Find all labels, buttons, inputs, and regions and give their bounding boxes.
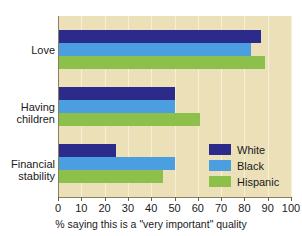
category-label-financial-stability: Financial stability [11,158,55,182]
legend-swatch-hispanic-icon [209,176,231,187]
bar-hispanic-love [58,56,265,69]
x-tick-mark [81,197,82,201]
x-tick-mark [268,197,269,201]
x-tick-label: 50 [163,202,187,214]
x-tick-mark [221,197,222,201]
bar-white-financial-stability [58,144,116,157]
x-tick-mark [175,197,176,201]
legend-swatch-black-icon [209,160,231,171]
x-tick-mark [105,197,106,201]
bar-black-financial-stability [58,157,175,170]
x-tick-label: 80 [232,202,256,214]
x-tick-label: 10 [69,202,93,214]
x-tick-label: 60 [186,202,210,214]
x-tick-mark [291,197,292,201]
x-tick-label: 20 [93,202,117,214]
grouped-bar-chart: Love Having children Financial stability… [0,0,302,236]
legend-item-black: Black [209,158,279,173]
x-tick-label: 100 [279,202,302,214]
legend-item-white: White [209,142,279,157]
x-tick-mark [58,197,59,201]
x-tick-label: 0 [46,202,70,214]
x-tick-mark [128,197,129,201]
category-label-having-children: Having children [16,101,55,125]
x-axis-title: % saying this is a "very important" qual… [0,218,302,230]
x-tick-mark [244,197,245,201]
bar-white-love [58,30,261,43]
legend-label-white: White [237,144,265,156]
legend-swatch-white-icon [209,144,231,155]
legend-label-hispanic: Hispanic [237,176,279,188]
bar-hispanic-financial-stability [58,170,163,183]
x-tick-label: 70 [209,202,233,214]
bar-black-having-children [58,100,175,113]
bar-hispanic-having-children [58,113,200,126]
x-tick-label: 30 [116,202,140,214]
x-tick-label: 40 [139,202,163,214]
grid-line [291,16,292,197]
y-axis-line [58,16,59,199]
bar-black-love [58,43,251,56]
x-tick-mark [151,197,152,201]
x-tick-mark [198,197,199,201]
legend-label-black: Black [237,160,264,172]
category-label-love: Love [31,44,55,56]
legend: White Black Hispanic [209,142,279,190]
x-tick-label: 90 [256,202,280,214]
legend-item-hispanic: Hispanic [209,174,279,189]
bar-white-having-children [58,87,175,100]
